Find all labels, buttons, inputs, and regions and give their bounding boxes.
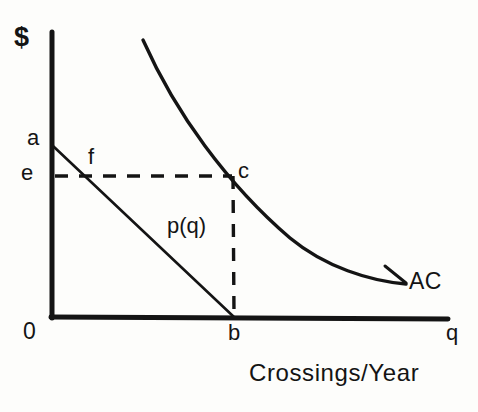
demand-curve — [53, 146, 234, 317]
demand-curve-label: p(q) — [167, 215, 206, 237]
economics-diagram-figure: $ q 0 a e f c b AC p(q) Crossings/Year — [0, 0, 478, 412]
y-axis-label: $ — [14, 24, 29, 51]
average-cost-curve-label: AC — [409, 270, 442, 293]
origin-label: 0 — [23, 320, 36, 343]
dashed-guide-quantity — [233, 176, 234, 315]
x-axis-title: Crossings/Year — [249, 361, 419, 385]
point-label-f: f — [88, 146, 94, 168]
point-label-b: b — [228, 322, 240, 344]
diagram-canvas — [0, 0, 478, 412]
point-label-a: a — [27, 127, 39, 149]
average-cost-curve — [143, 40, 406, 284]
x-axis — [51, 317, 448, 319]
x-axis-label: q — [446, 322, 458, 344]
point-label-e: e — [21, 162, 33, 184]
point-label-c: c — [238, 160, 249, 182]
